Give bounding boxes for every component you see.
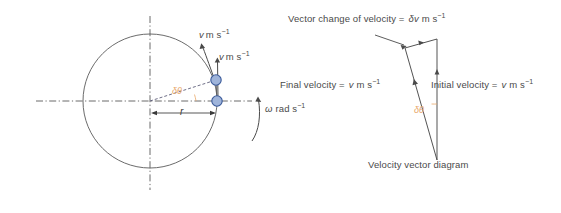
velocity-unit-right: m s bbox=[226, 51, 242, 62]
label-tangential-velocity-top: vm s−1 bbox=[199, 30, 230, 41]
vector-change-text: Vector change of velocity = bbox=[288, 13, 405, 24]
velocity-exponent-top: −1 bbox=[221, 28, 229, 35]
angular-velocity-arrowhead bbox=[255, 97, 261, 103]
initial-velocity-symbol: v bbox=[501, 79, 506, 90]
velocity-exponent-right: −1 bbox=[241, 50, 249, 57]
label-angle-delta-theta-circle: δθ bbox=[172, 86, 182, 96]
angle-arc bbox=[195, 95, 197, 102]
label-final-velocity: Final velocity =vm s−1 bbox=[280, 80, 380, 91]
label-initial-velocity: Initial velocity =vm s−1 bbox=[431, 80, 533, 91]
radius-arrowhead-right bbox=[210, 111, 216, 115]
particle-displaced bbox=[211, 75, 221, 85]
angular-velocity-exponent: −1 bbox=[297, 102, 305, 109]
left-diagram-group bbox=[36, 16, 261, 190]
initial-velocity-unit: m s bbox=[509, 79, 525, 90]
particle-initial bbox=[212, 96, 222, 106]
initial-velocity-text: Initial velocity = bbox=[431, 79, 497, 90]
angular-velocity-unit: rad s bbox=[276, 103, 298, 114]
caption-velocity-vector-diagram: Velocity vector diagram bbox=[368, 160, 469, 171]
angular-velocity-arc-arrow bbox=[252, 100, 260, 141]
vector-change-symbol: δv bbox=[409, 13, 419, 24]
radius-line-displaced bbox=[150, 80, 216, 101]
label-tangential-velocity-right: vm s−1 bbox=[219, 52, 250, 63]
vector-change-unit: m s bbox=[422, 13, 438, 24]
label-angular-velocity: ωrad s−1 bbox=[265, 104, 305, 115]
velocity-symbol-top: v bbox=[199, 29, 204, 40]
final-velocity-text: Final velocity = bbox=[280, 79, 345, 90]
delta-velocity-leader-line bbox=[375, 35, 404, 45]
label-radius-r: r bbox=[180, 106, 183, 118]
tangential-velocity-arrowhead-curved bbox=[200, 43, 206, 49]
right-diagram-group bbox=[375, 35, 439, 160]
final-velocity-unit: m s bbox=[357, 79, 373, 90]
final-velocity-midarrow bbox=[413, 79, 419, 85]
initial-velocity-exponent: −1 bbox=[525, 78, 533, 85]
label-vector-change-of-velocity: Vector change of velocity =δvm s−1 bbox=[288, 14, 446, 25]
vector-change-exponent: −1 bbox=[437, 12, 445, 19]
physics-figure-circular-motion: vm s−1 vm s−1 δθ r ωrad s−1 Vector chang… bbox=[0, 0, 561, 213]
final-velocity-exponent: −1 bbox=[372, 78, 380, 85]
angular-velocity-symbol: ω bbox=[265, 103, 273, 114]
velocity-symbol-right: v bbox=[219, 51, 224, 62]
label-angle-delta-theta-vector: δθ bbox=[414, 105, 424, 115]
final-velocity-symbol: v bbox=[349, 79, 354, 90]
initial-velocity-midarrow bbox=[435, 69, 440, 75]
velocity-unit-top: m s bbox=[206, 29, 222, 40]
radius-arrowhead-left bbox=[151, 111, 157, 115]
